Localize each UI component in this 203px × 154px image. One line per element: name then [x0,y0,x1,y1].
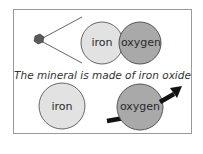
zoom-line-top [41,17,82,39]
arrow-shaft [160,94,174,102]
iron-label-bottom: iron [51,100,72,113]
oxygen-label-top: oxygen [121,36,161,49]
oxygen-label-bottom: oxygen [120,100,160,113]
zoom-line-bottom [41,41,82,63]
iron-label-top: iron [91,36,112,49]
caption: The mineral is made of iron oxide [13,69,192,81]
mineral-grain-icon [34,34,44,44]
